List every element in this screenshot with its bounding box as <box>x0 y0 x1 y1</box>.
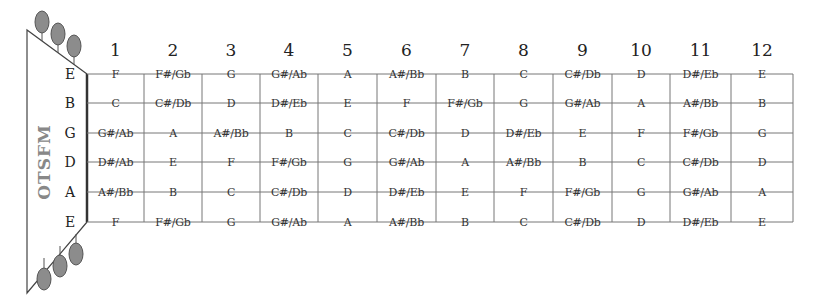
note-label: A <box>344 216 352 229</box>
note-label: A#/Bb <box>389 216 424 229</box>
note-label: F <box>112 216 119 229</box>
note-label: A#/Bb <box>98 186 133 199</box>
fret-number: 3 <box>202 40 260 60</box>
note-label: F#/Gb <box>683 127 718 140</box>
tuning-pegs-bottom <box>37 234 83 290</box>
note-label: B <box>461 216 469 229</box>
note-label: F#/Gb <box>155 216 190 229</box>
note-label: D <box>758 156 767 169</box>
fret-number: 7 <box>436 40 494 60</box>
note-label: B <box>758 97 766 110</box>
string-name: B <box>60 95 80 111</box>
note-label: F#/Gb <box>447 97 482 110</box>
note-label: A <box>758 186 766 199</box>
note-label: A <box>344 68 352 81</box>
fret-number: 4 <box>260 40 318 60</box>
note-label: G#/Ab <box>98 127 134 140</box>
note-label: A#/Bb <box>506 156 541 169</box>
note-label: C <box>227 186 235 199</box>
note-label: G <box>343 156 352 169</box>
fret-number: 10 <box>612 40 670 60</box>
note-label: G#/Ab <box>565 97 601 110</box>
fret-number: 2 <box>144 40 202 60</box>
note-label: E <box>758 216 766 229</box>
note-label: C <box>111 97 119 110</box>
note-label: G <box>519 97 528 110</box>
note-label: G <box>227 68 236 81</box>
note-label: D#/Eb <box>683 216 719 229</box>
note-label: E <box>461 186 469 199</box>
note-label: G <box>637 186 646 199</box>
note-label: F <box>637 127 644 140</box>
tuning-pegs-top <box>35 11 81 65</box>
note-label: A#/Bb <box>683 97 718 110</box>
note-label: D#/Ab <box>98 156 134 169</box>
note-label: C <box>343 127 351 140</box>
fret-number: 12 <box>733 40 791 60</box>
note-label: C <box>637 156 645 169</box>
note-label: F <box>403 97 410 110</box>
note-label: D#/Eb <box>506 127 542 140</box>
string-name: D <box>60 154 80 170</box>
note-label: B <box>461 68 469 81</box>
note-label: A <box>637 97 645 110</box>
note-label: C#/Db <box>682 156 718 169</box>
note-label: C#/Db <box>271 186 307 199</box>
note-label: D <box>227 97 236 110</box>
note-label: F#/Gb <box>271 156 306 169</box>
fret-number: 1 <box>87 40 145 60</box>
note-label: C#/Db <box>155 97 191 110</box>
guitar-fretboard-diagram: OTSFM 123456789101112 EBGDAE FF#/GbGG#/A… <box>0 0 818 304</box>
note-label: A <box>169 127 177 140</box>
string-name: G <box>60 125 80 141</box>
note-label: F#/Gb <box>565 186 600 199</box>
note-label: B <box>169 186 177 199</box>
note-label: F <box>227 156 234 169</box>
note-label: C#/Db <box>564 68 600 81</box>
note-label: C <box>519 68 527 81</box>
note-label: B <box>285 127 293 140</box>
note-label: E <box>758 68 766 81</box>
string-name: E <box>60 66 80 82</box>
note-label: B <box>579 156 587 169</box>
note-label: G <box>227 216 236 229</box>
note-label: G#/Ab <box>389 156 425 169</box>
note-label: C <box>519 216 527 229</box>
note-label: F <box>520 186 527 199</box>
fret-number: 11 <box>672 40 730 60</box>
note-label: D#/Eb <box>683 68 719 81</box>
fret-number: 5 <box>319 40 377 60</box>
note-label: D <box>461 127 470 140</box>
fret-number: 8 <box>495 40 553 60</box>
fret-number: 6 <box>378 40 436 60</box>
note-label: A#/Bb <box>214 127 249 140</box>
note-label: G#/Ab <box>683 186 719 199</box>
string-name: E <box>60 214 80 230</box>
fret-number: 9 <box>554 40 612 60</box>
note-label: D <box>637 216 646 229</box>
note-label: A <box>461 156 469 169</box>
note-label: G#/Ab <box>271 216 307 229</box>
note-label: C#/Db <box>388 127 424 140</box>
note-label: G#/Ab <box>271 68 307 81</box>
note-label: D <box>637 68 646 81</box>
note-label: F#/Gb <box>155 68 190 81</box>
note-label: A#/Bb <box>389 68 424 81</box>
brand-label: OTSFM <box>34 124 54 200</box>
note-label: F <box>112 68 119 81</box>
note-label: D#/Eb <box>389 186 425 199</box>
string-name: A <box>60 184 80 200</box>
note-label: G <box>758 127 767 140</box>
note-label: C#/Db <box>564 216 600 229</box>
note-label: E <box>579 127 587 140</box>
note-label: D#/Eb <box>271 97 307 110</box>
note-label: E <box>344 97 352 110</box>
note-label: D <box>343 186 352 199</box>
note-label: E <box>169 156 177 169</box>
